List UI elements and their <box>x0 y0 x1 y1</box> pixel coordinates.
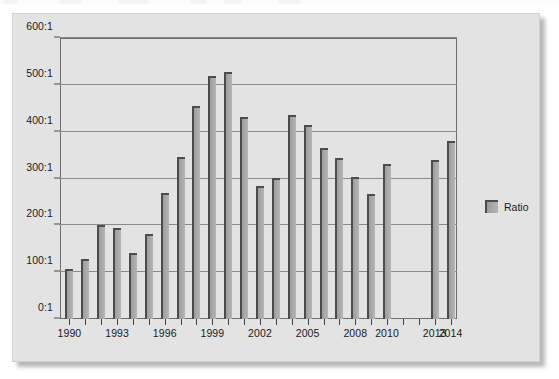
bar-2003 <box>272 178 280 319</box>
bar-2010 <box>383 164 391 319</box>
x-tick-mark <box>101 319 102 325</box>
x-tick-label-2014: 2014 <box>439 327 463 339</box>
x-tick-label-2010: 2010 <box>375 327 399 339</box>
bar-1996 <box>161 193 169 319</box>
x-tick-mark <box>69 319 70 325</box>
y-tick-label: 0:1 <box>38 301 53 313</box>
x-tick-mark <box>181 319 182 325</box>
bar-1999 <box>208 76 216 319</box>
bar-2014 <box>447 141 455 319</box>
bar-2004 <box>288 115 296 319</box>
bar-2001 <box>240 117 248 319</box>
y-tick-label: 500:1 <box>26 67 53 79</box>
bar-2005 <box>304 125 312 319</box>
chart-panel: 0:1100:1200:1300:1400:1500:1600:1 199019… <box>12 13 540 362</box>
bar-2006 <box>320 148 328 319</box>
top-cutoff-strip <box>0 0 559 9</box>
legend: Ratio <box>485 200 529 213</box>
y-tick-label: 600:1 <box>26 20 53 32</box>
bar-2000 <box>224 72 232 319</box>
x-tick-mark <box>292 319 293 325</box>
x-tick-mark <box>387 319 388 325</box>
x-tick-mark <box>276 319 277 325</box>
x-tick-label-1993: 1993 <box>105 327 129 339</box>
x-tick-mark <box>260 319 261 325</box>
bar-1995 <box>145 234 153 319</box>
x-tick-mark <box>212 319 213 325</box>
x-tick-mark <box>308 319 309 325</box>
x-tick-mark <box>324 319 325 325</box>
x-tick-mark <box>435 319 436 325</box>
legend-swatch-ratio <box>485 200 498 213</box>
x-tick-mark <box>419 319 420 325</box>
x-tick-label-2002: 2002 <box>248 327 272 339</box>
bar-2008 <box>351 177 359 319</box>
x-tick-mark <box>244 319 245 325</box>
bar-2013 <box>431 160 439 319</box>
x-tick-mark <box>451 319 452 325</box>
y-tick-label: 100:1 <box>26 254 53 266</box>
plot-area: 0:1100:1200:1300:1400:1500:1600:1 <box>60 38 457 319</box>
x-tick-mark <box>228 319 229 325</box>
x-tick-label-2008: 2008 <box>343 327 367 339</box>
x-tick-mark <box>165 319 166 325</box>
x-tick-mark <box>149 319 150 325</box>
bar-1997 <box>177 157 185 319</box>
x-axis: 1990199319961999200220052008201020132014 <box>60 319 457 349</box>
y-tick-label: 200:1 <box>26 207 53 219</box>
x-tick-mark <box>196 319 197 325</box>
bar-1998 <box>192 106 200 319</box>
bar-2002 <box>256 186 264 319</box>
legend-label-ratio: Ratio <box>504 201 529 213</box>
bar-1993 <box>113 228 121 319</box>
x-tick-mark <box>117 319 118 325</box>
bar-1990 <box>65 269 73 319</box>
x-tick-mark <box>403 319 404 325</box>
bar-1991 <box>81 259 89 319</box>
x-tick-mark <box>133 319 134 325</box>
bar-2007 <box>335 158 343 319</box>
x-tick-label-1996: 1996 <box>153 327 177 339</box>
x-tick-mark <box>355 319 356 325</box>
bar-1992 <box>97 225 105 319</box>
y-tick-label: 300:1 <box>26 161 53 173</box>
x-tick-mark <box>85 319 86 325</box>
x-tick-label-1999: 1999 <box>200 327 224 339</box>
bar-1994 <box>129 253 137 319</box>
y-tick-label: 400:1 <box>26 114 53 126</box>
x-tick-mark <box>339 319 340 325</box>
bar-series-ratio <box>60 38 457 319</box>
x-tick-label-1990: 1990 <box>58 327 82 339</box>
x-tick-label-2005: 2005 <box>296 327 320 339</box>
x-tick-mark <box>371 319 372 325</box>
bar-2009 <box>367 194 375 320</box>
